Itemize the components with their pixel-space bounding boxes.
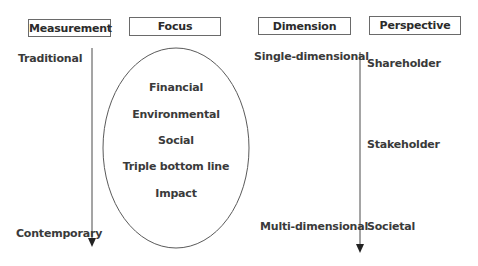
focus-item-impact: Impact	[155, 187, 196, 200]
dimension-multi: Multi-dimensional	[260, 220, 368, 233]
focus-ellipse	[103, 48, 249, 248]
header-dimension: Dimension	[258, 17, 351, 35]
header-measurement: Measurement	[28, 19, 111, 37]
focus-item-environmental: Environmental	[132, 108, 220, 121]
measurement-traditional: Traditional	[18, 52, 82, 65]
header-perspective: Perspective	[369, 16, 461, 35]
focus-item-social: Social	[158, 134, 194, 147]
focus-item-financial: Financial	[149, 81, 203, 94]
perspective-shareholder: Shareholder	[367, 57, 441, 70]
focus-item-triple-bottom-line: Triple bottom line	[123, 160, 229, 173]
header-focus: Focus	[129, 17, 221, 36]
measurement-contemporary: Contemporary	[16, 227, 102, 240]
perspective-stakeholder: Stakeholder	[367, 138, 440, 151]
dimension-arrow-head-icon	[356, 244, 364, 253]
dimension-single: Single-dimensional	[254, 50, 369, 63]
perspective-societal: Societal	[367, 220, 415, 233]
